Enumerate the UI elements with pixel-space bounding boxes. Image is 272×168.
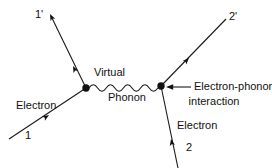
diagram-canvas: 1' 2' 1 2 Electron Electron Virtual Phon… bbox=[0, 0, 272, 168]
electron-2-prime-outgoing-line bbox=[161, 19, 226, 86]
label-interaction-line2: interaction bbox=[189, 95, 240, 107]
electron-1-prime-outgoing-line bbox=[51, 16, 86, 88]
arrow-interaction-pointer-icon bbox=[166, 84, 173, 90]
label-electron-1-prime: 1' bbox=[35, 8, 43, 20]
left-vertex-dot bbox=[82, 84, 89, 91]
arrow-tip-1-prime-icon bbox=[48, 13, 56, 21]
label-electron-right: Electron bbox=[177, 119, 217, 131]
label-interaction-line1: Electron-phonon bbox=[194, 80, 272, 92]
feynman-diagram-figure: 1' 2' 1 2 Electron Electron Virtual Phon… bbox=[0, 0, 272, 168]
right-vertex-dot bbox=[157, 82, 164, 89]
electron-1-incoming-line bbox=[9, 88, 86, 139]
label-electron-2-prime: 2' bbox=[229, 10, 237, 22]
electron-2-incoming-line bbox=[161, 86, 178, 168]
label-virtual: Virtual bbox=[94, 66, 125, 78]
label-electron-2: 2 bbox=[186, 141, 192, 153]
label-phonon: Phonon bbox=[108, 91, 146, 103]
label-electron-left: Electron bbox=[16, 99, 56, 111]
label-electron-1: 1 bbox=[25, 129, 31, 141]
